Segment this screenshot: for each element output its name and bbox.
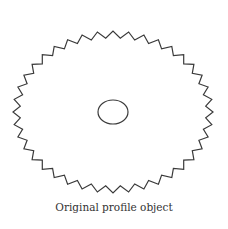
gear-profile-outline	[13, 31, 213, 193]
profile-diagram	[0, 0, 228, 229]
figure-caption: Original profile object	[0, 201, 228, 213]
center-hole	[98, 100, 128, 124]
